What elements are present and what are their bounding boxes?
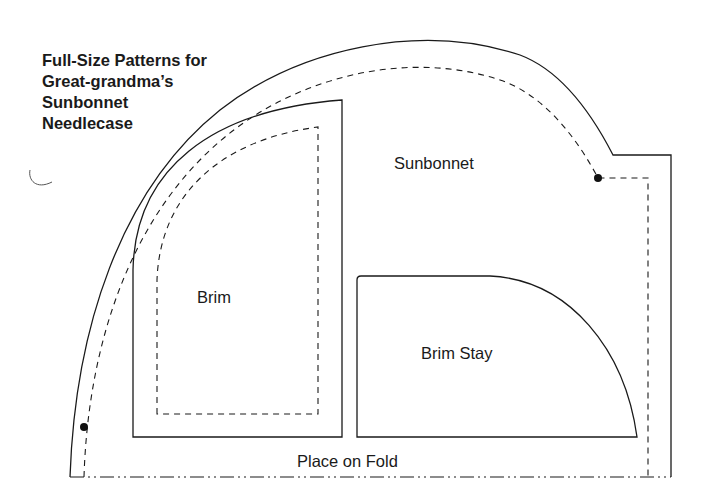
brim-seam-line — [157, 127, 318, 414]
brim-stay-cut-line — [357, 276, 637, 437]
sunbonnet-label: Sunbonnet — [394, 154, 474, 173]
title-line-1: Full-Size Patterns for — [42, 50, 207, 71]
title-line-4: Needlecase — [42, 113, 207, 134]
brim-stay-label: Brim Stay — [421, 344, 493, 363]
title-line-3: Sunbonnet — [42, 92, 207, 113]
stray-mark — [30, 170, 52, 185]
pattern-title: Full-Size Patterns for Great-grandma’s S… — [42, 50, 207, 134]
match-dot-left — [80, 423, 88, 431]
title-line-2: Great-grandma’s — [42, 71, 207, 92]
match-dot-right — [594, 174, 602, 182]
brim-label: Brim — [197, 288, 231, 307]
place-on-fold-label: Place on Fold — [297, 452, 398, 471]
brim-cut-line — [133, 100, 342, 437]
